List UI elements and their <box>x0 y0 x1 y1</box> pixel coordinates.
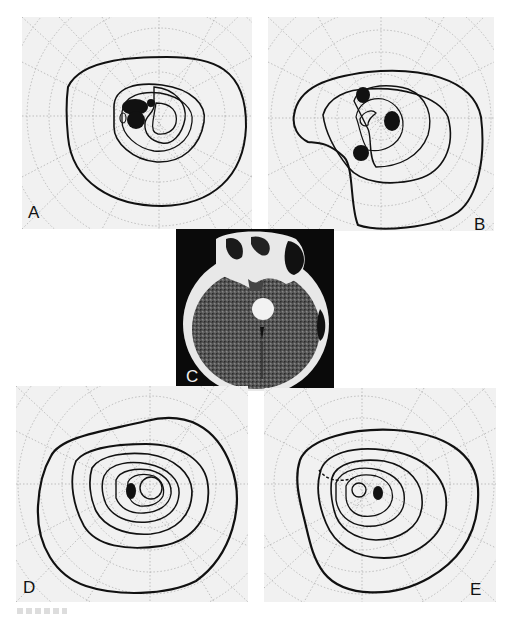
scotoma-shapes-b <box>353 87 400 161</box>
panel-label-c: C <box>186 367 198 387</box>
panel-c-ct-scan: C <box>176 229 334 391</box>
panel-d-visual-field: D <box>16 386 248 602</box>
perimetry-chart-a <box>22 17 252 229</box>
scotoma-shape-d <box>126 483 136 499</box>
ct-brain-image <box>176 229 334 391</box>
panel-e-visual-field: E <box>264 388 496 602</box>
panel-label-a: A <box>28 203 39 223</box>
panel-a-visual-field: A <box>22 17 252 229</box>
panel-label-d: D <box>23 578 35 598</box>
scotoma-shape-e <box>373 486 383 500</box>
perimetry-chart-e <box>264 388 496 602</box>
caption-fragment <box>17 608 67 614</box>
perimetry-chart-d <box>16 386 248 602</box>
perimetry-chart-b <box>268 17 494 231</box>
panel-b-visual-field: B <box>268 17 494 231</box>
panel-label-e: E <box>470 580 481 600</box>
panel-label-b: B <box>474 215 485 231</box>
